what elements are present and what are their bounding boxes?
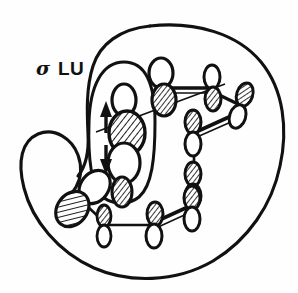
orbital-bottom-right [184, 186, 200, 231]
orbital-top-right-a [204, 65, 221, 111]
sigma-label: σ [36, 57, 50, 79]
orbital-top-right-b [226, 81, 256, 131]
orbital-mid-right-a [185, 110, 201, 156]
lu-label: LU [58, 58, 84, 80]
orbital-bottom-center-a [97, 205, 111, 247]
orbital-diagram-figure: σ LU [0, 0, 298, 293]
orbital-central-lower [108, 143, 140, 207]
orbital-diagram-canvas [0, 0, 298, 293]
orbital-top-center [149, 58, 176, 116]
orbital-bottom-center-b [146, 202, 163, 248]
